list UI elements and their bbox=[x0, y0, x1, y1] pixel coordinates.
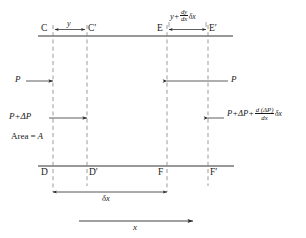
point-label-c-prime: C′ bbox=[88, 24, 96, 34]
x-axis-label: x bbox=[133, 223, 137, 232]
displacement-label-right: y+dydxδx bbox=[170, 9, 196, 24]
pressure-delta-label-left: P+ΔP bbox=[9, 112, 31, 121]
point-label-c: C bbox=[41, 24, 47, 34]
point-label-d: D bbox=[41, 168, 48, 178]
point-label-e-prime: E′ bbox=[209, 24, 217, 34]
displacement-right-tail: δx bbox=[189, 13, 196, 21]
displacement-right-denominator: dx bbox=[180, 15, 188, 23]
pressure-delta-right-denominator: dx bbox=[255, 113, 275, 121]
pressure-delta-right-numerator: d (ΔP) bbox=[255, 106, 275, 113]
area-label-text: Area bbox=[11, 132, 29, 141]
point-label-e: E bbox=[157, 24, 163, 34]
displacement-right-plus: + bbox=[174, 12, 180, 21]
area-label-equals: = bbox=[31, 132, 36, 141]
pressure-label-left: P bbox=[15, 75, 21, 84]
displacement-right-fraction: dydx bbox=[180, 9, 188, 24]
pressure-delta-right-fraction: d (ΔP)dx bbox=[255, 106, 275, 121]
pressure-delta-label-right: P+ΔP+d (ΔP)dxδx bbox=[227, 106, 282, 121]
pressure-delta-right-base: P+ΔP+ bbox=[227, 109, 254, 118]
point-label-f: F bbox=[158, 168, 163, 178]
pressure-delta-right-tail: δx bbox=[275, 110, 282, 118]
point-label-d-prime: D′ bbox=[89, 168, 98, 178]
displacement-label-left: y bbox=[67, 20, 71, 28]
area-label: Area=A bbox=[11, 132, 43, 141]
delta-x-label: δx bbox=[102, 194, 110, 203]
point-label-f-prime: F′ bbox=[210, 168, 217, 178]
area-label-symbol: A bbox=[38, 132, 44, 141]
displacement-right-numerator: dy bbox=[180, 9, 188, 16]
pressure-label-right: P bbox=[231, 75, 237, 84]
